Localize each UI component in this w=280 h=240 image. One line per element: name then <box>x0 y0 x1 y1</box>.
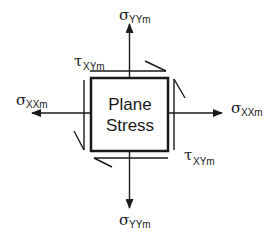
svg-text:XYm: XYm <box>193 156 215 167</box>
sigma-xx-right-label: σ XXm <box>231 99 263 118</box>
box-label-plane: Plane <box>108 95 151 114</box>
svg-text:XYm: XYm <box>83 61 105 72</box>
stress-element-box <box>91 78 168 151</box>
svg-text:τ: τ <box>74 52 82 70</box>
svg-text:YYm: YYm <box>129 14 151 25</box>
tau-xy-bottom-label: τ XYm <box>184 146 215 167</box>
tau-xy-top-label: τ XYm <box>74 52 105 72</box>
svg-text:XXm: XXm <box>241 107 263 118</box>
sigma-xx-left-label: σ XXm <box>16 91 48 110</box>
svg-text:τ: τ <box>184 146 192 164</box>
svg-text:YYm: YYm <box>129 219 151 230</box>
tau-xy-left-half-arrow <box>74 80 84 150</box>
svg-text:σ: σ <box>231 99 241 117</box>
sigma-yy-bottom-label: σ YYm <box>119 211 151 230</box>
plane-stress-diagram: Plane Stress σ YYm σ YYm σ XXm σ XXm τ X… <box>0 0 280 240</box>
box-label-stress: Stress <box>106 116 154 135</box>
diagram-svg: Plane Stress σ YYm σ YYm σ XXm σ XXm τ X… <box>0 0 280 240</box>
svg-text:σ: σ <box>119 211 129 229</box>
svg-text:σ: σ <box>16 91 26 109</box>
sigma-yy-top-label: σ YYm <box>119 6 151 25</box>
svg-text:XXm: XXm <box>26 99 48 110</box>
tau-xy-right-half-arrow <box>174 79 185 150</box>
tau-xy-bottom-half-arrow <box>94 158 168 167</box>
svg-text:σ: σ <box>119 6 129 24</box>
